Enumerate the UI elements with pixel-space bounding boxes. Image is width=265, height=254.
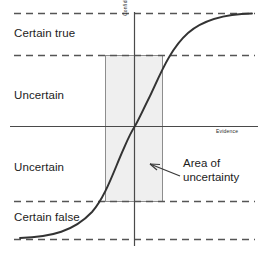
band-label-uncertain-upper: Uncertain xyxy=(14,89,64,101)
area-of-uncertainty-annotation: Area of uncertainty xyxy=(183,157,239,184)
band-label-certain-true: Certain true xyxy=(14,27,75,39)
band-label-certain-false: Certain false xyxy=(14,211,80,223)
confidence-evidence-diagram: Certain true Uncertain Uncertain Certain… xyxy=(0,0,265,254)
annotation-line-2: uncertainty xyxy=(183,171,239,185)
confidence-axis-label: Confidence xyxy=(122,0,128,16)
evidence-axis-label: Evidence xyxy=(216,128,238,134)
band-label-uncertain-lower: Uncertain xyxy=(14,161,64,173)
sigmoid-curve xyxy=(20,14,252,239)
annotation-line-1: Area of xyxy=(183,157,239,171)
